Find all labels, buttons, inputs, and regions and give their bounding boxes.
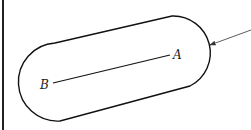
segment-ab [53, 55, 170, 83]
diagram-canvas: A B [0, 0, 251, 130]
pointer-arrow [210, 30, 251, 45]
label-a: A [172, 48, 182, 62]
label-b: B [39, 78, 49, 92]
